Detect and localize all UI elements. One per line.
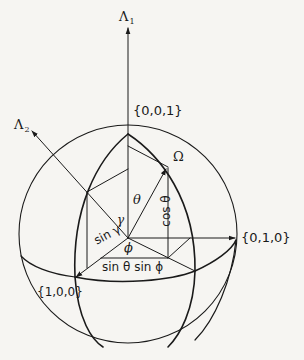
cos-theta-label: cos θ [160, 195, 172, 226]
lambda1-subscript: 1 [129, 17, 134, 26]
sin-theta-sin-phi-label: sin θ sin ϕ [102, 261, 163, 273]
lambda1-label: Λ1 [119, 10, 134, 26]
sphere-diagram [0, 0, 304, 360]
phi-angle-label: ϕ [124, 241, 133, 254]
projection-line [168, 238, 190, 258]
lambda2-symbol: Λ [14, 117, 23, 132]
lambda2-label: Λ2 [14, 118, 29, 134]
lambda2-subscript: 2 [24, 125, 29, 134]
lower-arc-right [195, 240, 236, 340]
lambda1-symbol: Λ [119, 9, 128, 24]
meridian-right [128, 134, 195, 347]
point-001-label: {0,0,1} [133, 104, 183, 117]
point-010-label: {0,1,0} [241, 231, 291, 244]
point-100-label: {1,0,0} [37, 286, 83, 298]
omega-label: Ω [173, 150, 184, 163]
lower-arc-left [21, 256, 75, 277]
theta-angle-label: θ [133, 193, 141, 206]
